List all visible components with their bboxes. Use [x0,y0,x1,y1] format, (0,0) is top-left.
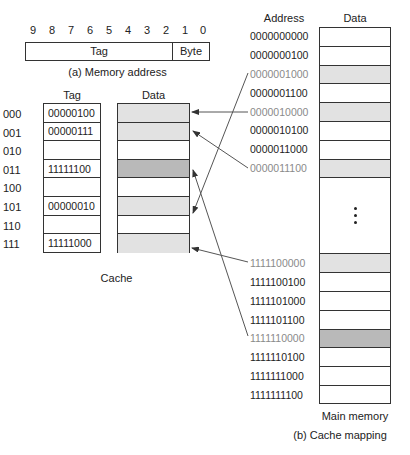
arrow-0000011100-to-001 [193,131,248,168]
arrow-1111110000-to-011 [193,170,248,336]
mapping-arrows [0,0,410,455]
arrow-0000001000-to-101 [193,73,248,213]
